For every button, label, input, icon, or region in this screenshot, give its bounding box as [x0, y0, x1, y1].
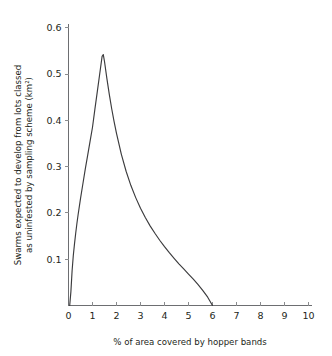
y-axis-title-line-1: Swarms expected to develop from lots cla… — [13, 65, 23, 266]
x-axis-group: 012345678910 — [65, 302, 314, 321]
y-tick-label: 0.1 — [46, 254, 61, 265]
x-tick-label: 0 — [65, 310, 71, 321]
y-axis-group: 0.10.20.30.40.50.6 — [46, 22, 68, 306]
data-series-line — [70, 55, 213, 306]
y-axis-title-group: Swarms expected to develop from lots cla… — [13, 65, 23, 266]
x-tick-label: 8 — [257, 310, 263, 321]
y-axis-title-group-2: as uninfested by sampling scheme (km²) — [24, 77, 34, 253]
x-tick-label: 9 — [281, 310, 287, 321]
y-tick-label: 0.2 — [46, 207, 61, 218]
x-tick-label: 5 — [185, 310, 191, 321]
chart-plot-area: 0.10.20.30.40.50.6 012345678910 % of are… — [0, 0, 332, 356]
x-tick-label: 2 — [113, 310, 119, 321]
x-tick-label: 7 — [233, 310, 239, 321]
y-tick-label: 0.3 — [46, 161, 61, 172]
y-tick-label: 0.6 — [46, 22, 61, 33]
x-tick-label: 6 — [209, 310, 215, 321]
x-axis-title: % of area covered by hopper bands — [113, 337, 267, 347]
x-axis-ticks: 012345678910 — [65, 302, 314, 321]
chart-figure: 0.10.20.30.40.50.6 012345678910 % of are… — [0, 0, 332, 356]
y-axis-ticks: 0.10.20.30.40.50.6 — [46, 22, 68, 265]
x-tick-label: 1 — [89, 310, 95, 321]
x-tick-label: 10 — [302, 310, 314, 321]
y-tick-label: 0.4 — [46, 115, 61, 126]
y-tick-label: 0.5 — [46, 68, 61, 79]
x-tick-label: 4 — [161, 310, 167, 321]
y-axis-title-line-2: as uninfested by sampling scheme (km²) — [24, 77, 34, 253]
x-tick-label: 3 — [137, 310, 143, 321]
